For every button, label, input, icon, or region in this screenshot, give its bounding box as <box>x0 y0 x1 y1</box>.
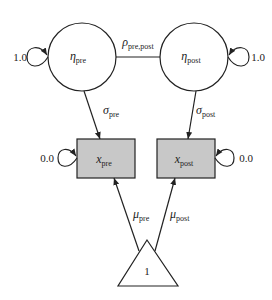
self-loop-label-eta-pre: 1.0 <box>13 51 27 63</box>
self-loop-x-pre <box>58 149 77 166</box>
self-loop-eta-post <box>228 48 249 66</box>
mean-label-post: μpost <box>169 207 190 223</box>
self-loop-label-x-pre: 0.0 <box>40 152 54 164</box>
loading-arrow-pre <box>84 91 100 139</box>
loading-label-pre: σpre <box>103 103 120 119</box>
path-diagram: ρpre,post ηpre 1.0 ηpost 1.0 σpre σpost … <box>0 0 272 300</box>
loading-arrow-post <box>188 91 196 139</box>
mean-label-pre: μpre <box>132 207 150 223</box>
self-loop-x-post <box>215 149 234 166</box>
self-loop-label-eta-post: 1.0 <box>251 51 265 63</box>
loading-label-post: σpost <box>196 103 216 119</box>
self-loop-label-x-post: 0.0 <box>239 152 253 164</box>
constant-node <box>118 240 178 286</box>
constant-label: 1 <box>144 265 150 277</box>
self-loop-eta-pre <box>27 48 48 66</box>
covariance-label: ρpre,post <box>121 35 154 51</box>
